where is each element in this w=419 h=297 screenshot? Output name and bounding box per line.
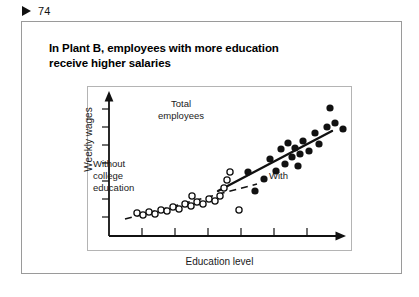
figure-title-line-2: receive higher salaries: [49, 56, 349, 71]
annotation-without-line-2: college: [93, 170, 134, 182]
figure-title-line-1: In Plant B, employees with more educatio…: [49, 41, 349, 56]
plot-area: Total employees Without college educatio…: [87, 86, 352, 251]
figure-container: In Plant B, employees with more educatio…: [21, 21, 402, 274]
annotation-without-college: Without college education: [93, 158, 134, 194]
trend-line-with-college: [218, 131, 332, 191]
x-axis-label: Education level: [87, 256, 352, 267]
annotation-total-line-2: employees: [141, 110, 221, 122]
page-canvas: 74 In Plant B, employees with more educa…: [0, 0, 419, 297]
series-with-college: [244, 104, 346, 194]
page-number: 74: [38, 5, 51, 17]
figure-title: In Plant B, employees with more educatio…: [49, 41, 349, 70]
x-axis-ticks: [142, 228, 307, 236]
annotation-without-line-3: education: [93, 182, 134, 194]
page-marker: 74: [22, 3, 51, 19]
series-without-college: [134, 169, 242, 218]
annotation-total-line-1: Total: [141, 98, 221, 110]
annotation-without-line-1: Without: [93, 158, 134, 170]
triangle-right-icon: [22, 6, 31, 16]
annotation-with-college: With: [269, 170, 288, 182]
y-axis-label: Weekly wages: [83, 95, 94, 185]
x-axis: [109, 232, 346, 241]
annotation-total-employees: Total employees: [141, 98, 221, 122]
